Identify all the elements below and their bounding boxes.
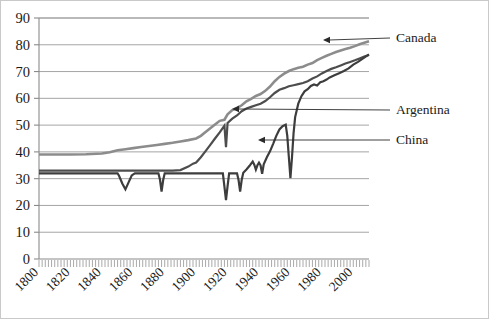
y-axis-tick-label: 30 — [16, 171, 31, 187]
y-axis-tick-label: 60 — [16, 90, 31, 106]
x-axis-labels: 1800182018401860188019001920194019601980… — [11, 264, 355, 294]
y-axis-tick-label: 0 — [23, 251, 30, 267]
annotation-leader-line — [238, 109, 390, 110]
x-axis-tick-label: 1920 — [200, 264, 230, 294]
x-axis-tick-label: 1840 — [74, 264, 104, 294]
axis-lines — [39, 18, 369, 259]
y-tick-marks — [34, 18, 39, 259]
y-axis-tick-label: 70 — [16, 64, 31, 80]
series-annotations: CanadaArgentinaChina — [232, 30, 450, 147]
annotation-arrowhead — [323, 37, 330, 43]
annotation-label: Argentina — [396, 102, 450, 117]
x-axis-tick-label: 1980 — [294, 264, 324, 294]
y-axis-tick-label: 40 — [16, 144, 31, 160]
x-axis-tick-label: 1900 — [169, 264, 199, 294]
x-axis-tick-label: 2000 — [326, 264, 356, 294]
y-axis-tick-label: 90 — [16, 10, 31, 26]
y-axis-tick-label: 20 — [16, 197, 31, 213]
data-series-layer — [39, 41, 369, 200]
y-axis-tick-label: 10 — [16, 224, 31, 240]
x-axis-tick-label: 1860 — [106, 264, 136, 294]
annotation-arrowhead — [258, 137, 265, 143]
annotation-argentina: Argentina — [232, 102, 450, 117]
x-axis-tick-label: 1880 — [137, 264, 167, 294]
y-gridlines — [39, 18, 369, 232]
x-axis-tick-label: 1960 — [263, 264, 293, 294]
annotation-canada: Canada — [323, 30, 436, 45]
y-axis-tick-label: 80 — [16, 37, 31, 53]
y-axis-tick-label: 50 — [16, 117, 31, 133]
chart-canvas: 0102030405060708090 18001820184018601880… — [1, 1, 489, 319]
annotation-arrowhead — [232, 106, 239, 112]
x-axis-tick-label: 1820 — [43, 264, 73, 294]
life-expectancy-line-chart: 0102030405060708090 18001820184018601880… — [1, 1, 489, 319]
x-axis-tick-label: 1800 — [11, 264, 41, 294]
chart-frame: 0102030405060708090 18001820184018601880… — [0, 0, 489, 319]
annotation-china: China — [258, 132, 428, 147]
y-axis-labels: 0102030405060708090 — [16, 10, 31, 267]
x-axis-tick-label: 1940 — [231, 264, 261, 294]
annotation-label: Canada — [396, 30, 436, 45]
annotation-leader-line — [329, 38, 390, 40]
annotation-label: China — [396, 132, 428, 147]
x-tick-band — [39, 260, 369, 267]
